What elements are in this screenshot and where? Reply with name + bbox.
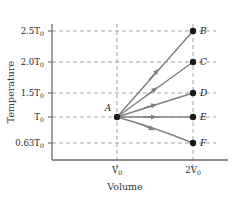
point-label-E: E: [199, 112, 207, 122]
point-label-F: F: [199, 138, 207, 148]
horizontal-gridlines: [52, 31, 216, 143]
marker-point-B[interactable]: [190, 28, 196, 34]
y-tick-label-1.5T0: 1.5T0: [21, 88, 44, 99]
point-label-A: A: [104, 103, 112, 113]
marker-point-A[interactable]: [114, 114, 120, 120]
arrow-A-to-B: [149, 71, 157, 80]
x-axis-title: Volume: [106, 181, 143, 192]
y-tick-label-0.63T0: 0.63T0: [15, 138, 44, 149]
x-tick-labels: V0 2V0: [111, 165, 201, 176]
path-A-to-F: [117, 117, 193, 143]
point-label-C: C: [200, 57, 207, 67]
y-tick-label-2.5T0: 2.5T0: [21, 26, 44, 37]
y-tick-label-2.0T0: 2.0T0: [21, 57, 44, 68]
marker-point-D[interactable]: [190, 90, 196, 96]
point-label-D: D: [199, 88, 207, 98]
tv-diagram: A B C D E F 2.5T0 2.0T0 1.5T0 T0 0.63T0 …: [0, 0, 238, 198]
y-axis-title: Temperature: [5, 61, 16, 124]
x-tick-label-V0: V0: [111, 165, 122, 176]
marker-point-C[interactable]: [190, 59, 196, 65]
direction-arrows: [141, 71, 157, 129]
marker-point-E[interactable]: [190, 114, 196, 120]
process-paths: [117, 31, 193, 143]
marker-point-F[interactable]: [190, 140, 196, 146]
y-tick-label-T0: T0: [34, 112, 44, 123]
arrow-A-to-C: [146, 89, 155, 96]
y-tick-labels: 2.5T0 2.0T0 1.5T0 T0 0.63T0: [15, 26, 44, 149]
x-tick-label-2V0: 2V0: [185, 165, 201, 176]
figure-container: A B C D E F 2.5T0 2.0T0 1.5T0 T0 0.63T0 …: [0, 0, 238, 198]
point-label-B: B: [199, 26, 207, 36]
